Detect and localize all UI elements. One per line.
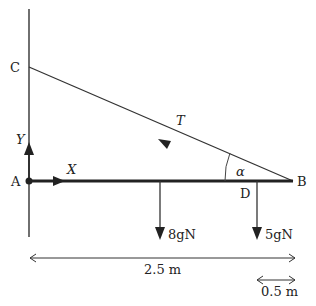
- label-2-5m: 2.5 m: [144, 262, 181, 277]
- label-c: C: [10, 60, 20, 75]
- label-d: D: [240, 186, 250, 201]
- label-t: T: [176, 113, 186, 128]
- label-b: B: [297, 174, 307, 189]
- tension-arrow-icon: [158, 139, 171, 149]
- dimension-2-5m: [30, 254, 295, 262]
- angle-arc: [225, 153, 230, 181]
- label-alpha: α: [236, 164, 245, 179]
- y-force-arrow-icon: [24, 142, 34, 181]
- label-5gn: 5gN: [265, 227, 293, 242]
- weight-5g-arrow-icon: [252, 181, 262, 240]
- label-a: A: [10, 174, 21, 189]
- label-8gn: 8gN: [168, 227, 196, 242]
- label-y: Y: [16, 132, 26, 147]
- label-x: X: [66, 162, 77, 177]
- dimension-0-5m: [257, 276, 295, 284]
- weight-8g-arrow-icon: [155, 181, 165, 240]
- x-force-arrow-icon: [53, 176, 65, 186]
- beam-diagram: C A B D T Y X α 8gN 5gN 2.5 m 0.5 m: [0, 0, 316, 306]
- label-0-5m: 0.5 m: [261, 284, 298, 299]
